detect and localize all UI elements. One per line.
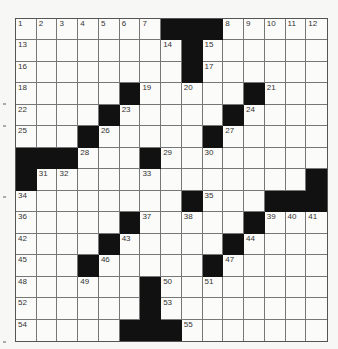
grid-cell[interactable] bbox=[37, 212, 58, 233]
grid-cell[interactable] bbox=[306, 83, 327, 104]
grid-cell[interactable] bbox=[140, 62, 161, 83]
grid-cell[interactable] bbox=[306, 105, 327, 126]
grid-cell[interactable] bbox=[265, 234, 286, 255]
grid-cell[interactable]: 53 bbox=[161, 298, 182, 319]
grid-cell[interactable]: 11 bbox=[286, 19, 307, 40]
grid-cell[interactable] bbox=[99, 62, 120, 83]
grid-cell[interactable] bbox=[182, 169, 203, 190]
grid-cell[interactable] bbox=[265, 169, 286, 190]
grid-cell[interactable]: 26 bbox=[99, 126, 120, 147]
grid-cell[interactable]: 51 bbox=[203, 277, 224, 298]
grid-cell[interactable]: 48 bbox=[16, 277, 37, 298]
grid-cell[interactable] bbox=[99, 40, 120, 61]
grid-cell[interactable] bbox=[161, 255, 182, 276]
grid-cell[interactable] bbox=[37, 40, 58, 61]
grid-cell[interactable] bbox=[286, 126, 307, 147]
grid-cell[interactable] bbox=[57, 191, 78, 212]
grid-cell[interactable] bbox=[37, 83, 58, 104]
grid-cell[interactable] bbox=[203, 105, 224, 126]
grid-cell[interactable]: 54 bbox=[16, 320, 37, 341]
grid-cell[interactable] bbox=[161, 234, 182, 255]
grid-cell[interactable]: 9 bbox=[244, 19, 265, 40]
grid-cell[interactable] bbox=[140, 40, 161, 61]
grid-cell[interactable]: 23 bbox=[120, 105, 141, 126]
grid-cell[interactable] bbox=[223, 40, 244, 61]
grid-cell[interactable] bbox=[37, 105, 58, 126]
grid-cell[interactable] bbox=[286, 83, 307, 104]
grid-cell[interactable] bbox=[120, 169, 141, 190]
grid-cell[interactable]: 40 bbox=[286, 212, 307, 233]
grid-cell[interactable] bbox=[78, 320, 99, 341]
grid-cell[interactable] bbox=[78, 62, 99, 83]
grid-cell[interactable] bbox=[57, 83, 78, 104]
grid-cell[interactable] bbox=[57, 105, 78, 126]
grid-cell[interactable] bbox=[306, 255, 327, 276]
grid-cell[interactable] bbox=[37, 298, 58, 319]
grid-cell[interactable] bbox=[182, 234, 203, 255]
grid-cell[interactable] bbox=[120, 298, 141, 319]
grid-cell[interactable]: 47 bbox=[223, 255, 244, 276]
grid-cell[interactable] bbox=[203, 234, 224, 255]
grid-cell[interactable] bbox=[306, 277, 327, 298]
grid-cell[interactable]: 32 bbox=[57, 169, 78, 190]
grid-cell[interactable] bbox=[57, 277, 78, 298]
grid-cell[interactable] bbox=[57, 234, 78, 255]
grid-cell[interactable] bbox=[120, 148, 141, 169]
grid-cell[interactable]: 24 bbox=[244, 105, 265, 126]
grid-cell[interactable] bbox=[78, 40, 99, 61]
grid-cell[interactable] bbox=[99, 212, 120, 233]
grid-cell[interactable]: 45 bbox=[16, 255, 37, 276]
grid-cell[interactable] bbox=[244, 62, 265, 83]
grid-cell[interactable]: 22 bbox=[16, 105, 37, 126]
grid-cell[interactable] bbox=[223, 148, 244, 169]
grid-cell[interactable]: 35 bbox=[203, 191, 224, 212]
grid-cell[interactable] bbox=[182, 255, 203, 276]
grid-cell[interactable] bbox=[223, 83, 244, 104]
grid-cell[interactable] bbox=[286, 169, 307, 190]
grid-cell[interactable] bbox=[99, 320, 120, 341]
grid-cell[interactable] bbox=[37, 255, 58, 276]
grid-cell[interactable]: 3 bbox=[57, 19, 78, 40]
grid-cell[interactable]: 41 bbox=[306, 212, 327, 233]
grid-cell[interactable] bbox=[223, 298, 244, 319]
grid-cell[interactable] bbox=[223, 320, 244, 341]
grid-cell[interactable] bbox=[57, 126, 78, 147]
grid-cell[interactable] bbox=[57, 40, 78, 61]
grid-cell[interactable]: 44 bbox=[244, 234, 265, 255]
grid-cell[interactable] bbox=[57, 212, 78, 233]
grid-cell[interactable]: 7 bbox=[140, 19, 161, 40]
grid-cell[interactable] bbox=[161, 105, 182, 126]
grid-cell[interactable] bbox=[244, 40, 265, 61]
grid-cell[interactable] bbox=[140, 126, 161, 147]
grid-cell[interactable] bbox=[286, 298, 307, 319]
grid-cell[interactable] bbox=[223, 169, 244, 190]
grid-cell[interactable] bbox=[306, 234, 327, 255]
grid-cell[interactable] bbox=[203, 83, 224, 104]
grid-cell[interactable]: 15 bbox=[203, 40, 224, 61]
grid-cell[interactable]: 16 bbox=[16, 62, 37, 83]
grid-cell[interactable] bbox=[37, 277, 58, 298]
grid-cell[interactable] bbox=[161, 212, 182, 233]
grid-cell[interactable] bbox=[306, 40, 327, 61]
grid-cell[interactable] bbox=[286, 105, 307, 126]
grid-cell[interactable] bbox=[140, 255, 161, 276]
grid-cell[interactable] bbox=[57, 298, 78, 319]
grid-cell[interactable]: 31 bbox=[37, 169, 58, 190]
grid-cell[interactable]: 49 bbox=[78, 277, 99, 298]
grid-cell[interactable] bbox=[99, 169, 120, 190]
grid-cell[interactable] bbox=[286, 62, 307, 83]
grid-cell[interactable] bbox=[99, 191, 120, 212]
grid-cell[interactable]: 12 bbox=[306, 19, 327, 40]
grid-cell[interactable]: 20 bbox=[182, 83, 203, 104]
grid-cell[interactable]: 36 bbox=[16, 212, 37, 233]
grid-cell[interactable]: 25 bbox=[16, 126, 37, 147]
grid-cell[interactable] bbox=[306, 298, 327, 319]
grid-cell[interactable]: 52 bbox=[16, 298, 37, 319]
grid-cell[interactable] bbox=[306, 126, 327, 147]
grid-cell[interactable]: 17 bbox=[203, 62, 224, 83]
grid-cell[interactable] bbox=[265, 320, 286, 341]
grid-cell[interactable] bbox=[57, 62, 78, 83]
grid-cell[interactable] bbox=[120, 62, 141, 83]
grid-cell[interactable]: 21 bbox=[265, 83, 286, 104]
grid-cell[interactable]: 1 bbox=[16, 19, 37, 40]
